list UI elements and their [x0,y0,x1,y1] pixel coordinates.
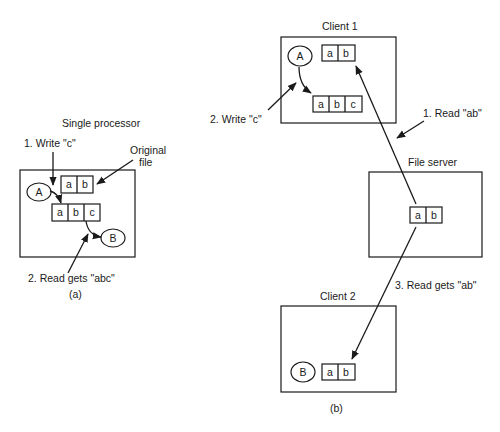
panel-a-title: Single processor [62,117,141,129]
file-cell: a [318,98,324,110]
server-to-client2-arrow [352,227,416,359]
file-cell: b [82,178,88,190]
file-cell: b [343,366,349,378]
original-file-pointer [97,160,133,184]
client1-process-label: A [296,50,303,62]
modified-file: a b c [52,204,100,221]
client1-cached-file: a b [322,45,355,61]
file-cell: a [57,206,63,218]
file-cell: a [66,178,72,190]
file-cell: c [89,206,94,218]
client2-process-label: B [299,366,306,378]
panel-b-caption: (b) [330,402,343,414]
server-file: a b [410,207,442,223]
file-cell: b [73,206,79,218]
a-to-file-arrow [50,191,61,203]
panel-b: Client 1 A a b a b c 2. Write "c" 1. Rea… [210,20,482,414]
file-cell: a [327,366,333,378]
file-cell: c [350,98,355,110]
client2-file: a b [322,364,355,380]
read-ab-pointer [397,121,424,138]
process-a-label: A [35,186,42,198]
original-file: a b [61,176,93,193]
client1-title: Client 1 [322,20,358,32]
file-cell: b [343,47,349,59]
a-write-arrow [299,67,311,93]
process-b-label: B [109,232,116,244]
diagram-canvas: Single processor 1. Write "c" Original f… [0,0,500,432]
panel-b-step2-label: 2. Write "c" [210,113,262,125]
file-cell: b [431,209,437,221]
client1-modified-file: a b c [313,96,362,112]
panel-a-caption: (a) [69,288,82,300]
panel-b-step1-label: 1. Read "ab" [423,107,482,119]
file-cell: a [415,209,421,221]
panel-b-step3-label: 3. Read gets "ab" [395,279,477,291]
original-file-label-line1: Original [130,144,166,156]
file-cell: b [334,98,340,110]
panel-a-step2-label: 2. Read gets "abc" [28,272,115,284]
write-pointer [268,83,296,110]
original-file-label-line2: file [139,156,153,168]
read-pointer [68,234,88,273]
panel-a: Single processor 1. Write "c" Original f… [20,117,166,300]
file-cell: a [327,47,333,59]
client2-title: Client 2 [320,290,356,302]
panel-a-step1-label: 1. Write "c" [24,137,76,149]
file-server-title: File server [408,156,458,168]
server-to-client1-arrow [356,66,416,204]
